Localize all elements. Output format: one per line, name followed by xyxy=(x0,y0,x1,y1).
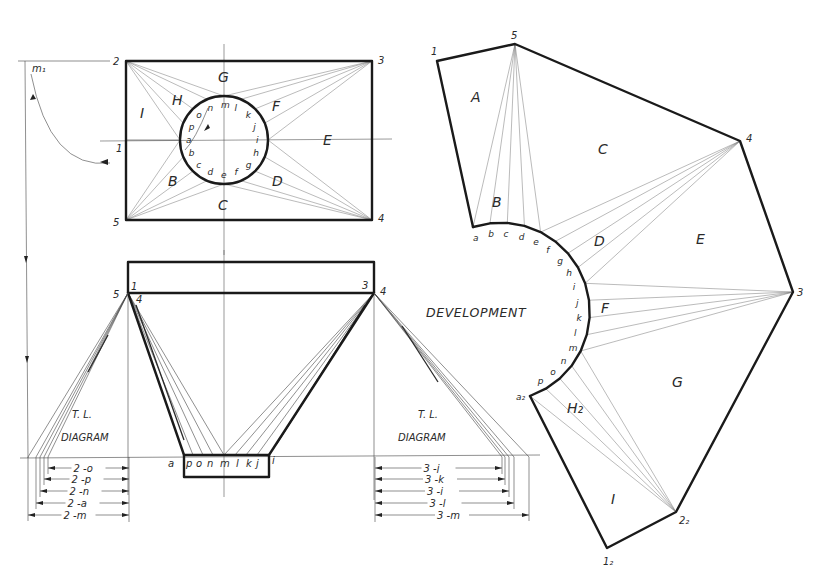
dev-element-line xyxy=(587,292,793,335)
fan-line xyxy=(126,184,224,220)
dev-arc-label-o: o xyxy=(550,367,556,377)
front-fan-line xyxy=(136,305,184,440)
dev-arc-label-p: p xyxy=(537,376,544,386)
circle-point-label-a: a xyxy=(186,135,192,145)
front-fan-line xyxy=(128,293,203,455)
arrowhead xyxy=(48,466,55,470)
fan-line xyxy=(224,61,372,96)
dev-arc-label-h: h xyxy=(566,268,572,278)
front-label-5: 5 xyxy=(113,289,119,300)
fan-line xyxy=(126,61,207,99)
dev-element-line xyxy=(530,396,676,512)
surface-label-D: D xyxy=(272,173,283,189)
dev-surface-B: B xyxy=(492,194,502,210)
dev-arc-label-m: m xyxy=(569,343,578,353)
dev-vertex-5: 5 xyxy=(511,30,517,41)
fan-line xyxy=(224,184,372,220)
dev-element-line xyxy=(585,141,740,283)
front-view-top-flange xyxy=(128,262,374,293)
arrowhead xyxy=(100,159,108,165)
circle-point-label-k: k xyxy=(246,110,252,120)
circle-point-label-d: d xyxy=(208,167,214,177)
bottom-label-o: o xyxy=(196,458,202,469)
corner-label-2: 2 xyxy=(113,56,119,67)
dev-vertex-4: 4 xyxy=(746,133,752,144)
dimension-label: 3 -k xyxy=(425,474,445,485)
bottom-label-j: j xyxy=(254,458,259,469)
corner-label-3: 3 xyxy=(378,55,384,66)
dev-element-line xyxy=(560,378,676,512)
development-title: DEVELOPMENT xyxy=(426,305,527,320)
dev-element-line xyxy=(515,44,541,232)
circle-point-label-m: m xyxy=(221,100,230,110)
dev-arc-label-n: n xyxy=(561,356,567,366)
dev-element-line xyxy=(555,141,740,241)
dev-vertex-1: 1 xyxy=(431,46,437,57)
surface-label-F: F xyxy=(272,98,281,114)
tl-left-title-1: T. L. xyxy=(72,409,92,420)
revolution-arc xyxy=(31,74,110,163)
dev-surface-G: G xyxy=(672,374,683,390)
dimension-label: 3 -j xyxy=(424,463,440,474)
top-view: 2 3 4 5 1 m₁ G H I E F B C D abcdefghijk… xyxy=(18,44,392,255)
surface-label-H: H xyxy=(172,92,183,108)
circle-point-label-o: o xyxy=(196,110,202,120)
development-element-lines xyxy=(473,44,793,512)
dev-arc-label-l: l xyxy=(574,328,577,338)
dev-arc-label-k: k xyxy=(577,313,583,323)
arrowhead xyxy=(44,477,51,481)
dev-surface-A: A xyxy=(470,89,481,105)
arrowhead xyxy=(204,124,210,131)
dimension-label: 3 -l xyxy=(430,498,446,509)
dev-arc-label-a: a xyxy=(473,233,479,243)
arrowhead xyxy=(507,501,514,505)
arrowhead xyxy=(375,513,382,517)
surface-label-C: C xyxy=(218,197,228,213)
dev-arc-label-g: g xyxy=(557,256,563,266)
dev-surface-F: F xyxy=(601,300,610,316)
dev-element-line xyxy=(581,351,676,512)
tl-line-heavy xyxy=(402,326,438,382)
arrowhead xyxy=(122,501,129,505)
surface-label-E: E xyxy=(323,132,332,148)
fan-line xyxy=(126,171,193,220)
surface-label-G: G xyxy=(218,69,229,85)
arrowhead xyxy=(122,513,129,517)
tl-diagram-left: T. L. DIAGRAM 2 -o2 -p2 -n2 -a2 -m xyxy=(28,293,129,522)
dev-surface-H2: H₂ xyxy=(567,400,584,416)
front-view-baseline xyxy=(20,455,540,458)
bottom-label-n: n xyxy=(207,458,213,469)
fan-line xyxy=(268,61,372,140)
dev-arc-label-c: c xyxy=(504,229,509,239)
surface-label-B: B xyxy=(168,173,178,189)
bottom-label-i: i xyxy=(272,455,275,466)
circle-point-label-j: j xyxy=(251,122,256,132)
corner-label-4: 4 xyxy=(378,213,384,224)
dimension-label: 2 -m xyxy=(64,510,87,521)
arrowhead xyxy=(498,477,505,481)
dev-element-line xyxy=(585,283,793,292)
circle-point-label-b: b xyxy=(189,148,195,158)
bottom-label-p: p xyxy=(185,458,192,469)
development: 1 5 4 3 2₂ 1₂ a₂ DEVELOPMENT A B C D E F… xyxy=(426,30,803,567)
circle-point-label-l: l xyxy=(234,103,237,113)
dimension-label: 2 -n xyxy=(70,486,90,497)
dev-vertex-2-2: 2₂ xyxy=(679,515,689,526)
dimension-label: 2 -a xyxy=(68,498,87,509)
front-fan-line xyxy=(224,293,374,455)
dev-element-line xyxy=(572,366,676,512)
circle-point-label-e: e xyxy=(221,170,227,180)
dev-surface-D: D xyxy=(594,233,605,249)
arrowhead xyxy=(502,489,509,493)
arrowhead xyxy=(36,501,43,505)
dev-element-line xyxy=(515,44,524,226)
dev-vertex-1-2: 1₂ xyxy=(603,556,613,567)
arrowhead xyxy=(375,489,382,493)
arrowhead xyxy=(30,94,36,100)
corner-label-5: 5 xyxy=(113,217,119,228)
dev-surface-I: I xyxy=(611,491,615,507)
front-view-fan-lines xyxy=(128,293,374,455)
arrowhead xyxy=(495,466,502,470)
dev-vertex-3: 3 xyxy=(797,287,803,298)
dev-surface-E: E xyxy=(696,231,705,247)
